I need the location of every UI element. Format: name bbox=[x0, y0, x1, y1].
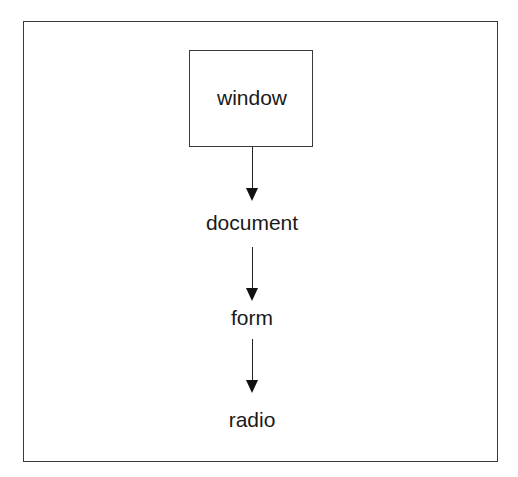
arrow-document-to-form bbox=[246, 247, 258, 301]
arrow-window-to-document bbox=[246, 147, 258, 201]
form-node-label: form bbox=[152, 306, 352, 330]
radio-node-label: radio bbox=[152, 408, 352, 432]
arrow-form-to-radio bbox=[246, 339, 258, 393]
arrowhead-icon bbox=[246, 288, 258, 301]
arrowhead-icon bbox=[246, 188, 258, 201]
window-node-label: window bbox=[152, 86, 352, 110]
arrowhead-icon bbox=[246, 380, 258, 393]
document-node-label: document bbox=[152, 211, 352, 235]
